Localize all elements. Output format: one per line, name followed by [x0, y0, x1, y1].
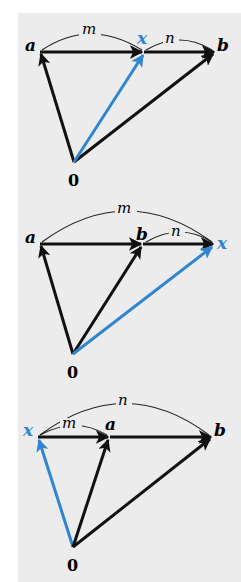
label-n: n [171, 222, 181, 240]
label-b: b [217, 35, 229, 55]
label-x: x [216, 233, 228, 253]
vector-0-to-a [41, 246, 73, 354]
label-b: b [214, 420, 226, 440]
label-m: m [82, 20, 96, 38]
label-a: a [25, 35, 36, 55]
label-origin: 0 [67, 363, 78, 382]
vector-0-to-a [41, 54, 74, 162]
vector-0-to-b [73, 247, 141, 354]
label-m: m [117, 199, 131, 217]
diagram-3: n m x a b 0 [22, 391, 226, 575]
vector-0-to-x [73, 247, 212, 354]
label-b: b [136, 224, 148, 244]
vector-0-to-b [73, 439, 210, 547]
label-x: x [22, 420, 34, 440]
vector-0-to-x [39, 440, 73, 547]
label-n: n [165, 29, 175, 47]
label-a: a [105, 414, 116, 434]
vector-division-figure: m n a x b 0 m n a b x 0 n m [0, 0, 241, 582]
vector-0-to-x [74, 55, 143, 162]
label-x: x [136, 28, 148, 48]
diagram-1: m n a x b 0 [25, 20, 229, 190]
label-origin: 0 [68, 171, 79, 190]
label-m: m [62, 414, 76, 432]
label-origin: 0 [67, 556, 78, 575]
vector-0-to-a [73, 440, 108, 547]
vector-0-to-b [74, 54, 213, 162]
label-n: n [118, 391, 128, 409]
diagram-2: m n a b x 0 [25, 199, 228, 382]
label-a: a [25, 227, 36, 247]
